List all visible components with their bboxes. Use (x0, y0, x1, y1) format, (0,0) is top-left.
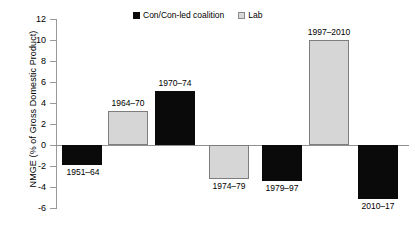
y-tick-label-6: 6 (18, 78, 46, 87)
y-tick-mark-10 (50, 40, 56, 41)
bar-1974-79[interactable] (209, 145, 249, 179)
legend-item-con: Con/Con-led coalition (133, 11, 224, 20)
y-tick-mark-12 (50, 19, 56, 20)
bar-1979-97[interactable] (262, 145, 302, 181)
bar-label-1951-64: 1951–64 (57, 168, 109, 177)
bar-label-1997-2010: 1997–2010 (299, 28, 359, 37)
y-tick-label-neg4: -4 (18, 183, 46, 192)
y-tick-mark-2 (50, 124, 56, 125)
bar-label-2010-17: 2010–17 (352, 202, 404, 211)
bar-1951-64[interactable] (62, 145, 102, 165)
bar-label-1974-79: 1974–79 (203, 182, 255, 191)
y-tick-label-4: 4 (18, 99, 46, 108)
bar-2010-17[interactable] (358, 145, 398, 199)
y-tick-mark-6 (50, 82, 56, 83)
y-tick-label-0: 0 (18, 141, 46, 150)
y-tick-label-neg2: -2 (18, 162, 46, 171)
bar-label-1979-97: 1979–97 (256, 184, 308, 193)
bar-1964-70[interactable] (108, 111, 148, 145)
bar-label-1970-74: 1970–74 (149, 79, 201, 88)
y-tick-label-8: 8 (18, 57, 46, 66)
chart-legend: Con/Con-led coalition Lab (133, 11, 262, 20)
legend-item-lab: Lab (238, 11, 262, 20)
y-tick-mark-8 (50, 61, 56, 62)
y-tick-mark-neg4 (50, 187, 56, 188)
y-tick-label-10: 10 (18, 36, 46, 45)
y-tick-mark-neg2 (50, 166, 56, 167)
legend-swatch-lab-icon (238, 12, 245, 19)
legend-label-lab: Lab (248, 11, 262, 20)
bar-chart: Con/Con-led coalition Lab NMGE (% of Gro… (0, 0, 415, 227)
legend-swatch-con-icon (133, 12, 140, 19)
bar-label-1964-70: 1964–70 (102, 99, 154, 108)
y-tick-label-2: 2 (18, 120, 46, 129)
y-tick-label-neg6: -6 (18, 204, 46, 213)
y-tick-mark-4 (50, 103, 56, 104)
y-tick-label-12: 12 (18, 15, 46, 24)
bar-1970-74[interactable] (155, 91, 195, 145)
y-axis-line (56, 19, 57, 209)
bar-1997-2010[interactable] (309, 40, 349, 145)
legend-label-con: Con/Con-led coalition (143, 11, 224, 20)
y-tick-mark-neg6 (50, 208, 56, 209)
